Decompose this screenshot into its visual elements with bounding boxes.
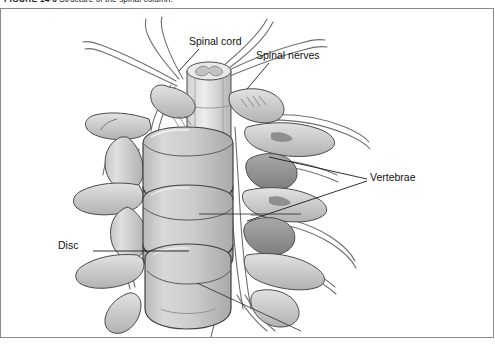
- figure-caption: FIGURE 14-3 Structure of the spinal colu…: [4, 0, 474, 6]
- figure-page: FIGURE 14-3 Structure of the spinal colu…: [0, 0, 495, 350]
- figure-caption-number: 14-3: [40, 0, 57, 4]
- figure-caption-label: FIGURE: [4, 0, 38, 4]
- label-spinal-cord: Spinal cord: [189, 35, 242, 47]
- leader-spinal-nerves: [247, 63, 269, 89]
- figure-frame: Spinal cord Spinal nerves Vertebrae Disc: [0, 8, 494, 338]
- label-spinal-nerves: Spinal nerves: [256, 49, 320, 61]
- right-vertebral-processes-group: [242, 123, 334, 327]
- label-vertebrae: Vertebrae: [370, 171, 416, 183]
- label-disc: Disc: [58, 239, 78, 251]
- vertebral-body-column: [143, 127, 233, 329]
- spinal-column-illustration: [1, 9, 494, 338]
- left-vertebral-processes-group: [74, 113, 151, 333]
- figure-caption-text: Structure of the spinal column.: [59, 0, 173, 4]
